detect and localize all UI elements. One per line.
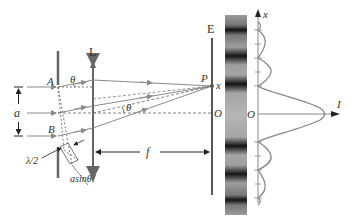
plot-x-axis-label: x: [262, 8, 268, 20]
half-wavelength-label: λ/2: [25, 155, 38, 166]
point-a-label: A: [46, 75, 54, 87]
i-axis-arrow-icon: [331, 111, 340, 117]
point-x-label: x: [215, 79, 221, 91]
half-wavelength-arrow-2: [74, 140, 84, 145]
converging-rays: [93, 80, 212, 128]
angle-arc-lower: [122, 107, 124, 113]
focal-length-label: f: [146, 145, 151, 159]
plot-i-axis-label: I: [336, 98, 342, 110]
point-p-label: P: [200, 72, 208, 84]
lens-label: L: [89, 45, 96, 59]
point-b-label: B: [48, 123, 55, 135]
point-p-dot: [210, 84, 214, 88]
diffraction-diagram: a λ/2 asinθ L: [0, 0, 353, 220]
angle-label-lower: θ: [126, 101, 132, 113]
path-difference-label: asinθ: [70, 173, 92, 184]
chief-ray: [93, 86, 212, 113]
path-difference-construction: [58, 87, 92, 165]
origin-plot-label: O: [247, 108, 255, 120]
lens-top-arrow-icon: [90, 60, 96, 68]
origin-screen-label: O: [214, 107, 222, 119]
slit-width-label: a: [14, 106, 20, 120]
x-axis-arrow-icon: [255, 9, 261, 17]
diffracted-rays: [58, 80, 93, 136]
fringe-pattern: [225, 15, 247, 215]
angle-label-top: θ: [70, 73, 76, 85]
screen-label: E: [207, 22, 214, 36]
